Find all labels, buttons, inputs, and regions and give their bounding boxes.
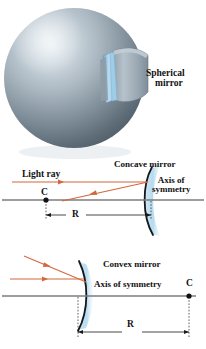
spherical-mirror-label: Spherical mirror: [146, 69, 185, 89]
light-ray-label: Light ray: [22, 170, 60, 180]
concave-axis-label-line2: symmetry: [152, 185, 190, 194]
convex-center-point-label: C: [186, 279, 193, 289]
convex-mirror-diagram: [2, 256, 196, 338]
optics-figure: Spherical mirror Concave mirror Axis of …: [0, 0, 206, 349]
spherical-mirror-label-line1: Spherical: [146, 68, 185, 78]
convex-axis-of-symmetry-label: Axis of symmetry: [94, 280, 161, 289]
mirror-patch-body: [113, 48, 148, 102]
concave-radius-label: R: [72, 210, 79, 220]
concave-incoming-ray-arrow: [58, 180, 64, 185]
concave-center-point-label: C: [41, 188, 48, 198]
spherical-mirror-illustration: [4, 8, 148, 159]
concave-reflected-ray: [62, 182, 148, 201]
convex-mirror-label: Convex mirror: [103, 260, 161, 269]
convex-radius-label: R: [127, 320, 134, 330]
concave-mirror-label: Concave mirror: [114, 160, 176, 169]
convex-ray-lower-arrow: [42, 277, 48, 282]
convex-ray-upper-arrow: [43, 262, 51, 267]
spherical-mirror-label-line2: mirror: [146, 79, 185, 89]
convex-ray-upper: [24, 256, 86, 282]
concave-reflected-ray-arrow: [89, 190, 97, 195]
concave-axis-of-symmetry-label: Axis of symmetry: [152, 176, 190, 195]
